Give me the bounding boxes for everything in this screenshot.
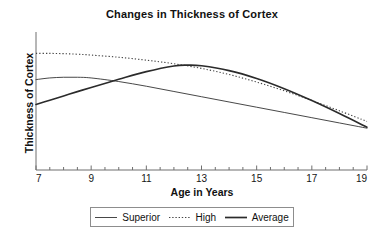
x-tick-label: 9 bbox=[88, 173, 94, 184]
x-tick-label: 15 bbox=[251, 173, 263, 184]
axis-lines bbox=[36, 32, 367, 170]
legend-label-average: Average bbox=[252, 212, 289, 223]
chart-legend: Superior High Average bbox=[90, 207, 294, 227]
x-tick-label: 17 bbox=[306, 173, 318, 184]
chart-container: Changes in Thickness of Cortex Thickness… bbox=[0, 0, 384, 237]
legend-item-superior: Superior bbox=[95, 212, 160, 223]
plot-area: 791113151719 bbox=[0, 0, 384, 237]
x-axis-tick-labels: 791113151719 bbox=[36, 173, 367, 184]
legend-label-high: High bbox=[196, 212, 217, 223]
x-axis-ticks bbox=[36, 166, 367, 171]
thick-line-icon bbox=[225, 214, 247, 221]
legend-label-superior: Superior bbox=[122, 212, 160, 223]
x-tick-label: 7 bbox=[36, 173, 42, 184]
dotted-line-icon bbox=[169, 214, 191, 221]
series-line-average bbox=[36, 65, 367, 127]
legend-item-average: Average bbox=[225, 212, 289, 223]
x-tick-label: 13 bbox=[196, 173, 208, 184]
legend-item-high: High bbox=[169, 212, 217, 223]
series-line-high bbox=[36, 53, 367, 121]
x-axis-label: Age in Years bbox=[36, 186, 368, 198]
data-series-layer bbox=[36, 53, 367, 128]
x-tick-label: 19 bbox=[356, 173, 368, 184]
x-tick-label: 11 bbox=[141, 173, 152, 184]
solid-line-icon bbox=[95, 214, 117, 221]
